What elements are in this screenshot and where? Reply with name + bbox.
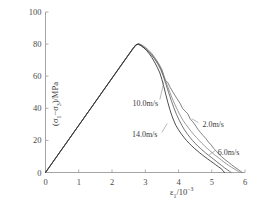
stress-strain-chart: 0123456 020406080100 (σ1−σ3)/MPa ε1/10−3… <box>0 0 262 208</box>
y-axis-title-text: (σ1−σ3)/MPa <box>51 49 62 159</box>
y-tick-label: 0 <box>37 168 41 177</box>
y-tick-label: 80 <box>33 40 42 49</box>
y-axis-title: (σ1−σ3)/MPa <box>51 49 62 159</box>
curve-label-6-0m-s: 6.0m/s <box>218 149 240 157</box>
y-tick-label: 20 <box>33 136 42 145</box>
annotation-leader <box>162 124 167 133</box>
x-tick-label: 6 <box>243 178 247 187</box>
annotation-leader <box>160 82 164 100</box>
x-tick-label: 3 <box>143 178 147 187</box>
x-tick-label: 0 <box>43 178 47 187</box>
y-tick-label: 100 <box>29 8 42 17</box>
curve-label-2-0m-s: 2.0m/s <box>202 121 224 129</box>
axes-group <box>46 12 246 173</box>
curve-label-10-0m-s: 10.0m/s <box>133 100 159 108</box>
x-axis-title: ε1/10−3 <box>170 187 193 199</box>
x-tick-label: 2 <box>110 178 114 187</box>
y-tick-label: 40 <box>33 104 42 113</box>
x-tick-label: 1 <box>77 178 81 187</box>
y-tick-label: 60 <box>33 72 42 81</box>
x-tick-label: 4 <box>176 178 180 187</box>
tick-marks <box>46 12 246 173</box>
x-axis-title-text: ε1/10−3 <box>170 187 193 197</box>
x-tick-label: 5 <box>210 178 214 187</box>
curve-label-14-0m-s: 14.0m/s <box>132 131 158 139</box>
curve-10-0m-s <box>46 44 232 172</box>
data-curves <box>46 44 243 173</box>
annotation-leader-lines <box>160 82 215 155</box>
curve-14-0m-s <box>46 44 225 172</box>
